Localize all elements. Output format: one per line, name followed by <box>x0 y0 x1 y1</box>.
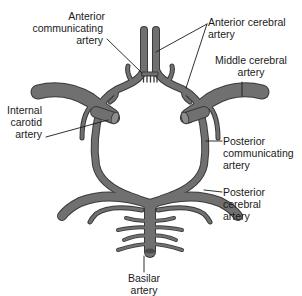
leader-anterior-communicating <box>107 39 142 73</box>
basilar-shading <box>145 249 155 254</box>
circle-of-willis-diagram: Anterior communicating artery Anterior c… <box>0 0 302 296</box>
label-basilar-artery: Basilar artery <box>112 272 176 296</box>
internal-carotid-stumps <box>96 111 204 125</box>
label-posterior-communicating-artery: Posterior communicating artery <box>223 135 294 171</box>
label-middle-cerebral-artery: Middle cerebral artery <box>206 54 296 78</box>
label-anterior-communicating-artery: Anterior communicating artery <box>50 10 103 46</box>
leader-posterior-cerebral <box>204 190 222 192</box>
label-anterior-cerebral-artery: Anterior cerebral artery <box>208 16 286 40</box>
label-internal-carotid-artery: Internal carotid artery <box>2 104 42 140</box>
label-posterior-cerebral-artery: Posterior cerebral artery <box>223 186 265 222</box>
